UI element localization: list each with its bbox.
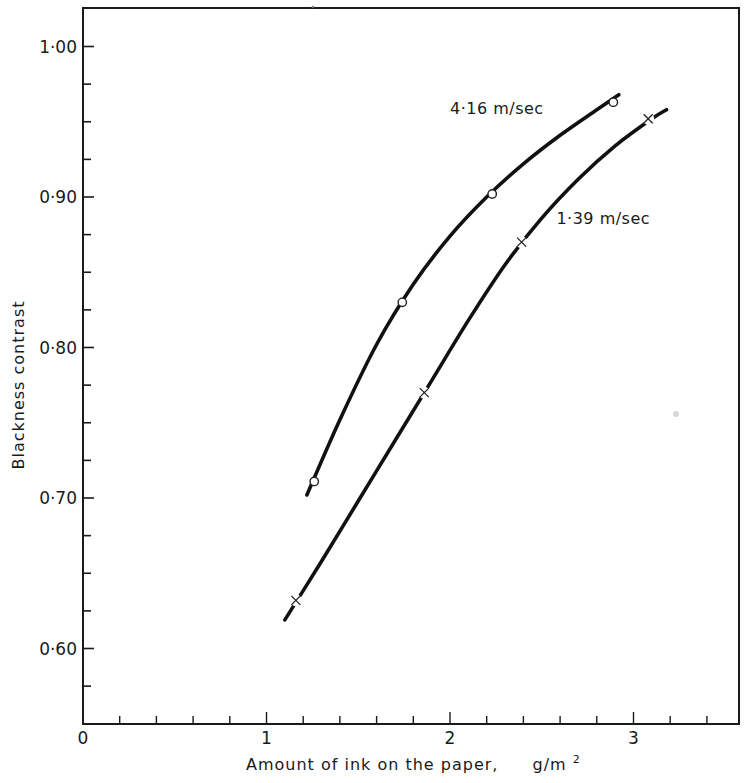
x-tick-label: 1 [261, 728, 272, 748]
y-tick-label: 0·80 [39, 338, 77, 358]
chart: 0·600·700·800·901·00 0123 4·16 m/sec1·39… [0, 0, 748, 783]
x-axis-unit: g/m [532, 755, 566, 774]
circle-marker [488, 190, 496, 198]
scan-speck [312, 6, 314, 8]
y-tick-label: 0·60 [39, 639, 77, 659]
series-label-4-16: 4·16 m/sec [450, 99, 544, 118]
scan-smudge [673, 411, 679, 417]
y-tick-label: 0·90 [39, 187, 77, 207]
y-tick-label: 1·00 [39, 37, 77, 57]
chart-background [0, 0, 748, 783]
y-tick-label: 0·70 [39, 488, 77, 508]
series-label-1-39: 1·39 m/sec [556, 209, 650, 228]
x-tick-label: 3 [628, 728, 639, 748]
x-axis-unit-superscript: 2 [573, 753, 581, 766]
x-tick-label: 0 [78, 728, 89, 748]
x-axis-title-text: Amount of ink on the paper, [246, 755, 498, 774]
circle-marker [609, 98, 617, 106]
y-axis-title: Blackness contrast [9, 300, 28, 469]
x-tick-label: 2 [445, 728, 456, 748]
circle-marker [310, 477, 318, 485]
circle-marker [398, 298, 406, 306]
